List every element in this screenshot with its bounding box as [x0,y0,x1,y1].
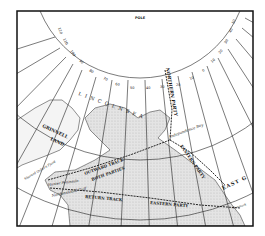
svg-text:30: 30 [160,85,164,89]
arctic-map: POLE 120 110 100 90 80 70 60 50 40 30 20… [0,0,265,236]
svg-text:40: 40 [146,86,150,90]
map-figure: POLE 120 110 100 90 80 70 60 50 40 30 20… [0,0,265,236]
svg-text:20: 20 [176,83,180,87]
pole-label: POLE [135,16,146,20]
svg-text:50: 50 [130,86,134,90]
